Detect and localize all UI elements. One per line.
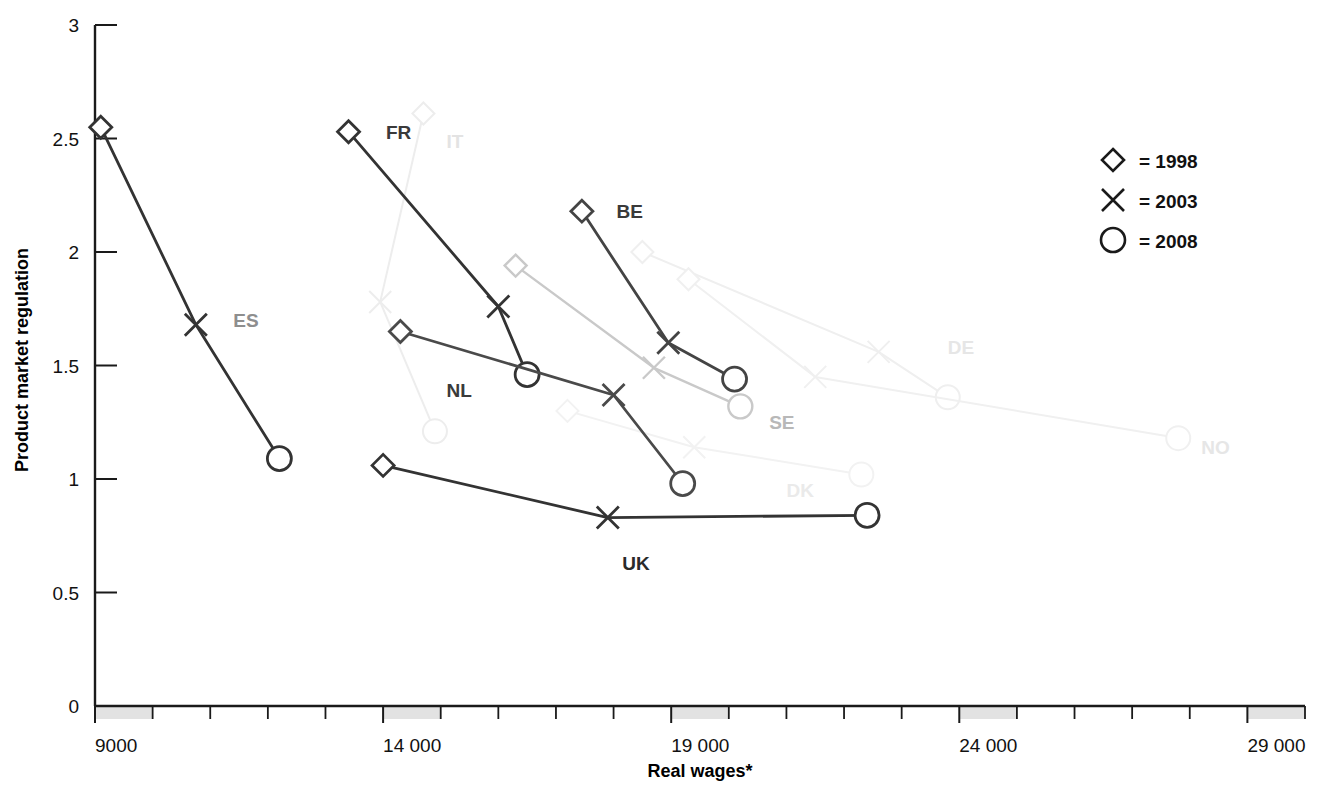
y-tick-label: 1.5 <box>53 356 79 377</box>
series-layer-strong <box>90 116 879 528</box>
marker-diamond-1998 <box>505 255 527 277</box>
series-label-nl: NL <box>446 380 472 401</box>
marker-circle-2008 <box>1101 228 1125 252</box>
series-line <box>516 266 741 407</box>
series-fr <box>338 121 540 387</box>
marker-cross-2003 <box>643 357 665 379</box>
y-tick-label: 0.5 <box>53 583 79 604</box>
marker-circle-2008 <box>728 394 752 418</box>
marker-cross-2003 <box>369 291 391 313</box>
y-axis-title: Product market regulation <box>12 248 32 472</box>
marker-diamond-1998 <box>412 103 434 125</box>
series-dk <box>556 400 873 487</box>
series-label-dk: DK <box>786 480 814 501</box>
marker-cross-2003 <box>1102 189 1124 211</box>
scatter-line-chart: 900014 00019 00024 00029 000 00.511.522.… <box>0 0 1317 789</box>
series-line <box>400 332 682 484</box>
x-axis-band <box>959 706 1017 719</box>
x-axis-band <box>1247 706 1305 719</box>
x-tick-labels: 900014 00019 00024 00029 000 <box>95 735 1306 756</box>
x-tick-label: 14 000 <box>383 735 441 756</box>
y-tick-label: 2.5 <box>53 129 79 150</box>
marker-circle-2008 <box>671 472 695 496</box>
marker-cross-2003 <box>487 295 509 317</box>
marker-circle-2008 <box>1166 426 1190 450</box>
y-tick-labels: 00.511.522.53 <box>53 15 79 717</box>
marker-diamond-1998 <box>1102 149 1124 171</box>
marker-cross-2003 <box>683 436 705 458</box>
x-tick-label: 19 000 <box>671 735 729 756</box>
series-label-de: DE <box>948 337 974 358</box>
marker-diamond-1998 <box>677 268 699 290</box>
series-line <box>349 132 528 375</box>
y-tick-label: 1 <box>68 469 79 490</box>
series-nl <box>389 320 694 495</box>
chart-root: 900014 00019 00024 00029 000 00.511.522.… <box>0 0 1317 789</box>
series-label-be: BE <box>616 201 642 222</box>
marker-circle-2008 <box>855 503 879 527</box>
axis-bands <box>95 706 1305 719</box>
legend-label-cross: = 2003 <box>1139 191 1198 212</box>
series-it <box>369 103 447 444</box>
series-es <box>90 116 292 470</box>
marker-diamond-1998 <box>389 320 411 342</box>
marker-cross-2003 <box>185 314 207 336</box>
series-line <box>101 127 280 459</box>
x-tick-label: 9000 <box>95 735 137 756</box>
marker-cross-2003 <box>804 366 826 388</box>
series-label-fr: FR <box>386 122 412 143</box>
x-tick-label: 24 000 <box>959 735 1017 756</box>
series-de <box>631 241 959 409</box>
series-line <box>380 114 435 432</box>
series-labels: ESFRNLBEUKSEITDENODK <box>233 122 1230 574</box>
marker-diamond-1998 <box>556 400 578 422</box>
marker-circle-2008 <box>723 367 747 391</box>
x-tick-label: 29 000 <box>1247 735 1305 756</box>
x-axis-band <box>671 706 729 719</box>
marker-cross-2003 <box>603 384 625 406</box>
marker-circle-2008 <box>849 462 873 486</box>
series-label-it: IT <box>446 131 463 152</box>
y-tick-label: 0 <box>68 696 79 717</box>
series-label-uk: UK <box>622 553 650 574</box>
x-axis-band <box>383 706 441 719</box>
series-no <box>677 268 1190 450</box>
marker-cross-2003 <box>657 332 679 354</box>
marker-diamond-1998 <box>372 454 394 476</box>
marker-circle-2008 <box>267 447 291 471</box>
marker-diamond-1998 <box>631 241 653 263</box>
x-axis-title: Real wages* <box>647 761 752 781</box>
x-axis-band <box>95 706 153 719</box>
series-line <box>568 411 862 475</box>
series-label-es: ES <box>233 310 258 331</box>
legend: = 1998= 2003= 2008 <box>1101 149 1198 252</box>
legend-label-circle: = 2008 <box>1139 231 1198 252</box>
marker-diamond-1998 <box>90 116 112 138</box>
marker-diamond-1998 <box>571 200 593 222</box>
legend-label-diamond: = 1998 <box>1139 151 1198 172</box>
marker-cross-2003 <box>868 341 890 363</box>
marker-circle-2008 <box>423 419 447 443</box>
y-tick-label: 2 <box>68 242 79 263</box>
series-se <box>505 255 753 419</box>
y-tick-label: 3 <box>68 15 79 36</box>
series-label-no: NO <box>1201 437 1230 458</box>
series-label-se: SE <box>769 412 794 433</box>
